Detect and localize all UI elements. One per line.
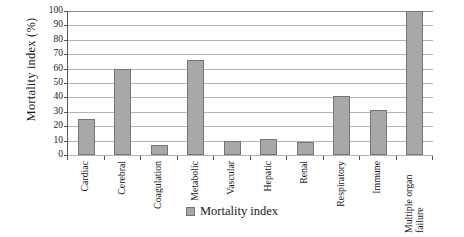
y-axis-tick-0: 0 [58,150,63,160]
x-axis-label-cerebral: Cerebral [117,161,128,195]
x-axis-label-cardiac: Cardiac [80,161,91,191]
bar-slot [360,11,397,155]
x-label-slot: Cerebral [104,161,141,235]
x-tickmark [213,156,214,160]
y-axis-tick-labels: 1009080706050403020100 [38,11,63,155]
bar-slot [68,11,105,155]
x-axis-label-metabolic: Metabolic [190,161,201,201]
legend-swatch-mortality-index [186,207,195,216]
plot-area [67,11,433,156]
x-tickmark [323,156,324,160]
bar[interactable] [114,69,131,155]
x-tickmark [432,156,433,160]
x-tickmark [104,156,105,160]
bar[interactable] [297,142,314,155]
y-axis-tick-50: 50 [54,78,64,88]
x-axis-label-multiple-organ-failure: Multiple organ failure [403,161,424,233]
x-tickmark [177,156,178,160]
bar-slot [251,11,288,155]
y-axis-tick-90: 90 [54,21,64,31]
x-label-slot: Metabolic [177,161,214,235]
x-label-slot: Multiple organ failure [396,161,433,235]
x-axis-label-vascular: Vascular [226,161,237,195]
bar-slot [214,11,251,155]
bar[interactable] [260,139,277,155]
bar-slot [397,11,434,155]
x-label-slot: Cardiac [67,161,104,235]
x-tickmark [359,156,360,160]
x-tickmark [396,156,397,160]
x-axis-tickmarks [67,156,433,160]
bar[interactable] [333,96,350,155]
bar[interactable] [151,145,168,155]
y-axis-tick-10: 10 [54,136,64,146]
x-label-slot: Hepatic [250,161,287,235]
bar[interactable] [406,11,423,155]
x-tickmark [286,156,287,160]
x-axis-label-coagulation: Coagulation [153,161,164,209]
x-axis-label-hepatic: Hepatic [263,161,274,191]
x-label-slot: Renal [286,161,323,235]
chart-legend: Mortality index [0,205,464,218]
x-tickmark [250,156,251,160]
legend-label-mortality-index: Mortality index [200,205,278,218]
bars-group [68,11,433,155]
y-axis-tick-100: 100 [49,6,63,16]
x-label-slot: Respiratory [323,161,360,235]
x-tickmark [67,156,68,160]
y-axis-tick-20: 20 [54,121,64,131]
bar[interactable] [187,60,204,155]
x-axis-label-renal: Renal [299,161,310,184]
y-axis-tick-40: 40 [54,93,64,103]
x-tickmark [140,156,141,160]
x-label-slot: Coagulation [140,161,177,235]
y-axis-tick-80: 80 [54,35,64,45]
x-axis-label-respiratory: Respiratory [336,161,347,207]
bar-chart-figure: Mortality index (%) 10090807060504030201… [0,0,464,237]
y-axis-title: Mortality index (%) [24,0,39,145]
y-axis-tick-60: 60 [54,64,64,74]
y-axis-tick-30: 30 [54,107,64,117]
x-label-slot: Vascular [213,161,250,235]
bar[interactable] [78,119,95,155]
bar[interactable] [370,110,387,155]
x-label-slot: Immune [359,161,396,235]
bar[interactable] [224,141,241,155]
bar-slot [178,11,215,155]
bar-slot [141,11,178,155]
bar-slot [324,11,361,155]
bar-slot [287,11,324,155]
x-axis-label-immune: Immune [372,161,383,194]
x-axis-category-labels: CardiacCerebralCoagulationMetabolicVascu… [67,161,432,235]
bar-slot [105,11,142,155]
y-axis-tick-70: 70 [54,49,64,59]
